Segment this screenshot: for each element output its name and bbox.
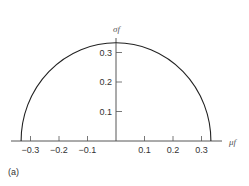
y-tick-label: 0.1 <box>99 107 112 117</box>
y-axis-label: σf <box>113 24 121 34</box>
chart: −0.3−0.2−0.10.10.20.30.10.20.3 σf μf (a) <box>0 0 249 186</box>
x-tick-label: 0.2 <box>167 145 180 155</box>
x-tick-label: 0.1 <box>138 145 151 155</box>
x-tick-label: −0.3 <box>22 145 40 155</box>
y-tick-label: 0.3 <box>99 48 112 58</box>
panel-label: (a) <box>8 167 19 177</box>
ticks: −0.3−0.2−0.10.10.20.30.10.20.3 <box>22 48 208 156</box>
x-tick-label: −0.2 <box>50 145 68 155</box>
x-tick-label: 0.3 <box>195 145 208 155</box>
y-tick-label: 0.2 <box>99 77 112 87</box>
axes <box>11 38 222 141</box>
x-axis-label: μf <box>228 137 238 147</box>
x-tick-label: −0.1 <box>79 145 97 155</box>
